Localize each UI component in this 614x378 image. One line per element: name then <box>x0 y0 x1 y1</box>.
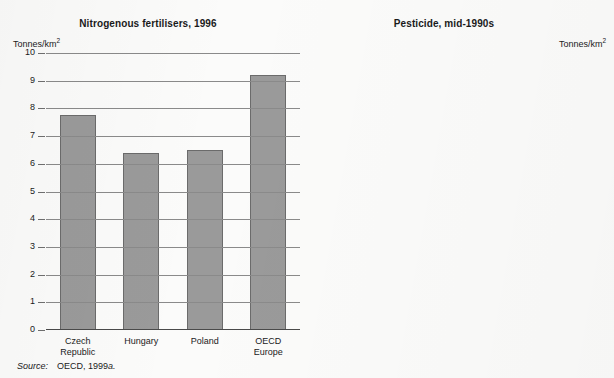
gridline <box>46 219 300 220</box>
gridline <box>46 136 300 137</box>
source-suffix: a. <box>108 361 116 371</box>
axis-tick-mark <box>38 330 45 331</box>
axis-tick-mark <box>38 108 45 109</box>
gridline <box>46 302 300 303</box>
axis-tick-label: 8 <box>30 103 35 112</box>
axis-tick-mark <box>38 247 45 248</box>
gridline <box>46 164 300 165</box>
source-note: Source:OECD, 1999a. <box>17 361 116 371</box>
x-axis-line-left <box>46 329 300 330</box>
bar[interactable] <box>123 153 159 330</box>
gridline <box>46 192 300 193</box>
axis-tick-mark <box>38 219 45 220</box>
axis-tick-label: 6 <box>30 159 35 168</box>
source-text: OECD, 1999 <box>57 361 108 371</box>
axis-tick-mark <box>38 136 45 137</box>
category-label: Poland <box>173 336 237 347</box>
axis-tick-label: 7 <box>30 131 35 140</box>
axis-unit-superscript-right: 2 <box>603 37 607 44</box>
axis-tick-label: 3 <box>30 242 35 251</box>
axis-tick-label: 5 <box>30 187 35 196</box>
chart-title-right: Pesticide, mid-1990s <box>299 18 589 29</box>
axis-tick-label: 4 <box>30 214 35 223</box>
axis-unit-superscript-left: 2 <box>57 37 61 44</box>
chart-panel-nitrogenous-fertilisers: Nitrogenous fertilisers, 1996 Tonnes/km2… <box>0 0 307 378</box>
axis-tick-label: 0 <box>30 325 35 334</box>
source-label: Source: <box>17 361 48 371</box>
category-label: Czech Republic <box>46 336 110 358</box>
axis-tick-mark <box>38 164 45 165</box>
category-label: Hungary <box>110 336 174 347</box>
figure-page: Nitrogenous fertilisers, 1996 Tonnes/km2… <box>0 0 614 378</box>
gridline <box>46 108 300 109</box>
gridline <box>46 275 300 276</box>
axis-unit-text-right: Tonnes/km <box>559 39 603 49</box>
category-label: OECD Europe <box>237 336 301 358</box>
axis-tick-label: 9 <box>30 76 35 85</box>
axis-unit-label-right: Tonnes/km2 <box>559 37 606 49</box>
gridline <box>46 53 300 54</box>
axis-unit-label-left: Tonnes/km2 <box>13 37 60 49</box>
axis-tick-mark <box>38 275 45 276</box>
axis-tick-label: 2 <box>30 270 35 279</box>
axis-tick-mark <box>38 53 45 54</box>
gridline <box>46 81 300 82</box>
bar[interactable] <box>60 115 96 330</box>
axis-tick-mark <box>38 192 45 193</box>
plot-area-left: 012345678910Czech RepublicHungaryPolandO… <box>46 53 300 330</box>
axis-tick-mark <box>38 302 45 303</box>
axis-tick-mark <box>38 81 45 82</box>
axis-tick-label: 1 <box>30 297 35 306</box>
axis-tick-label: 10 <box>25 48 35 57</box>
gridline <box>46 247 300 248</box>
chart-panel-pesticide: Pesticide, mid-1990s 00.050.100.150.200.… <box>307 0 614 378</box>
chart-title-left: Nitrogenous fertilisers, 1996 <box>8 18 288 29</box>
bar[interactable] <box>250 75 286 330</box>
